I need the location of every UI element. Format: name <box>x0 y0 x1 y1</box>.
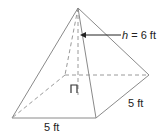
right-angle-marker <box>71 85 77 93</box>
height-label: h = 6 ft <box>122 29 156 41</box>
base-side-label: 5 ft <box>128 97 143 109</box>
base-front-label: 5 ft <box>44 121 59 133</box>
edge-apex-front-left <box>12 8 78 118</box>
pyramid-diagram: h = 6 ft 5 ft 5 ft <box>0 0 164 137</box>
edge-apex-back-right <box>78 8 149 75</box>
hidden-edge-back-left-front-left <box>12 75 65 118</box>
height-arrow <box>80 32 121 38</box>
edge-apex-front-right <box>78 8 96 118</box>
height-value: = 6 ft <box>128 29 156 41</box>
